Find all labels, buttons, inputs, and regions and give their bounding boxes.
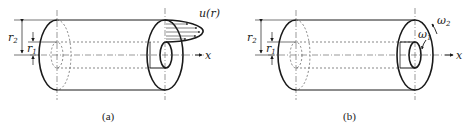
r2-label: r2 (8, 31, 18, 45)
x-axis-label: x (456, 49, 463, 62)
r2-label: r2 (247, 31, 257, 45)
r1-label: r1 (27, 42, 37, 56)
panel-b: r2 r1 x ω1 ω2 (b) (247, 8, 463, 123)
r1-label: r1 (266, 42, 276, 56)
x-axis-label: x (205, 49, 212, 62)
velocity-label: u(r) (199, 7, 220, 20)
panel-a: r2 r1 x u(r) (a) (8, 7, 220, 123)
caption-b: (b) (343, 110, 356, 123)
velocity-profile (165, 20, 203, 42)
caption-a: (a) (102, 110, 115, 123)
diagram-canvas: r2 r1 x u(r) (a) (0, 0, 470, 128)
omega2-label: ω2 (437, 14, 451, 28)
omega1-rotation-arrow (422, 40, 426, 49)
omega1-label: ω1 (418, 28, 431, 42)
